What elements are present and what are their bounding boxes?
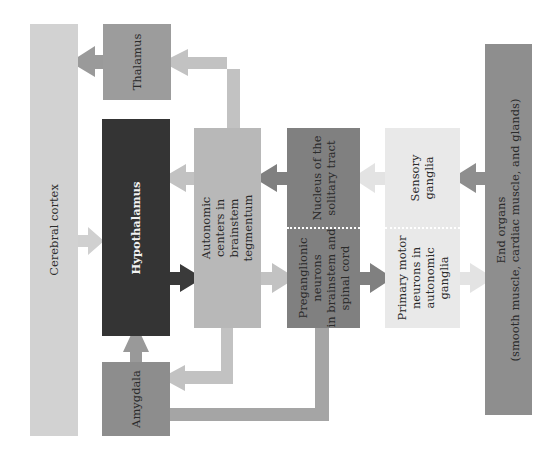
node-label: Cerebral cortex (47, 184, 61, 276)
node-label: Amygdala (129, 370, 143, 428)
arrow-autonomic-to-thalamus (162, 49, 240, 128)
divider-sensory-motor (385, 227, 460, 229)
node-label: End organs (smooth muscle, cardiac muscl… (495, 98, 523, 361)
divider-nucleus-preganglionic (287, 227, 360, 229)
node-label: Primary motor neurons in autonomic gangl… (395, 235, 451, 320)
node-preganglionic-neurons: Preganglionic neurons in brainstem and s… (287, 228, 360, 328)
node-label: Preganglionic neurons in brainstem and s… (296, 228, 352, 327)
node-thalamus: Thalamus (103, 24, 171, 100)
node-nucleus-solitary-tract: Nucleus of the solitary tract (287, 128, 360, 228)
node-sensory-ganglia: Sensory ganglia (385, 128, 460, 228)
node-primary-motor-neurons: Primary motor neurons in autonomic gangl… (385, 228, 460, 328)
node-end-organs: End organs (smooth muscle, cardiac muscl… (485, 44, 532, 415)
node-label: Hypothalamus (129, 181, 143, 274)
node-cerebral-cortex: Cerebral cortex (30, 24, 78, 436)
node-label: Nucleus of the solitary tract (310, 135, 338, 220)
node-label: Sensory ganglia (408, 155, 436, 202)
node-label: Thalamus (130, 34, 144, 91)
arrows-layer (0, 0, 550, 451)
node-amygdala: Amygdala (102, 362, 170, 436)
arrow-autonomic-to-amygdala (161, 328, 233, 391)
node-label: Autonomic centers in brainstem tegmentum (200, 195, 256, 262)
arrow-cortex-to-hypothalamus (78, 227, 104, 255)
node-hypothalamus: Hypothalamus (102, 119, 170, 336)
node-autonomic-centers: Autonomic centers in brainstem tegmentum (194, 128, 261, 328)
